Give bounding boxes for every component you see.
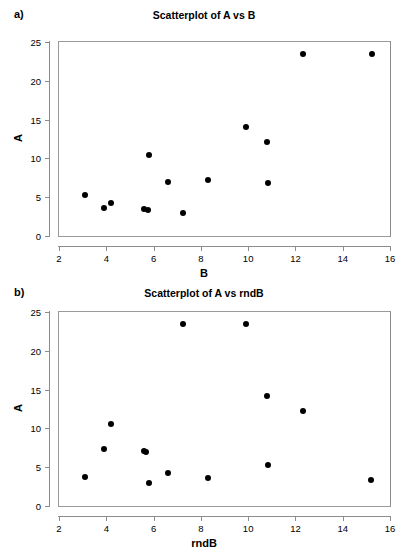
x-axis-tick-label: 8 — [189, 524, 213, 534]
data-point — [205, 177, 211, 183]
x-axis-tick-label: 16 — [378, 524, 402, 534]
x-axis-tick — [154, 247, 155, 251]
data-point — [108, 421, 114, 427]
data-point — [146, 152, 152, 158]
y-axis-tick — [45, 236, 49, 237]
y-axis-tick-label: 10 — [17, 154, 41, 164]
panel-b-plot-area — [59, 312, 390, 506]
x-axis-tick-label: 6 — [142, 254, 166, 264]
data-point — [243, 124, 249, 130]
panel-a-plot-area — [59, 42, 390, 236]
y-axis-tick-label: 20 — [17, 77, 41, 87]
panel-b: b) Scatterplot of A vs rndB 0510152025A2… — [0, 280, 408, 553]
x-axis-tick — [295, 247, 296, 251]
data-point — [101, 446, 107, 452]
data-point — [82, 192, 88, 198]
x-axis-label: B — [0, 267, 408, 279]
y-axis-tick — [45, 158, 49, 159]
y-axis-tick — [45, 197, 49, 198]
data-point — [82, 474, 88, 480]
x-axis-tick — [59, 247, 60, 251]
data-point — [143, 449, 149, 455]
y-axis-tick — [45, 42, 49, 43]
data-point — [265, 462, 271, 468]
x-axis-tick-label: 2 — [47, 254, 71, 264]
y-axis-label: A — [12, 123, 24, 153]
x-axis-tick-label: 6 — [142, 524, 166, 534]
panel-a: a) Scatterplot of A vs B 0510152025A2468… — [0, 0, 408, 280]
y-axis-tick — [45, 120, 49, 121]
x-axis-tick — [295, 517, 296, 521]
data-point — [300, 408, 306, 414]
x-axis-tick — [390, 247, 391, 251]
x-axis-tick — [201, 247, 202, 251]
y-axis-tick — [45, 467, 49, 468]
panel-b-plot-frame — [58, 311, 391, 507]
x-axis-line — [58, 516, 391, 517]
x-axis-tick-label: 10 — [236, 254, 260, 264]
panel-b-title: Scatterplot of A vs rndB — [0, 287, 408, 299]
data-point — [108, 200, 114, 206]
x-axis-tick-label: 2 — [47, 524, 71, 534]
x-axis-tick — [343, 247, 344, 251]
data-point — [146, 480, 152, 486]
y-axis-tick — [45, 428, 49, 429]
y-axis-tick-label: 25 — [17, 38, 41, 48]
x-axis-tick-label: 12 — [283, 254, 307, 264]
data-point — [101, 205, 107, 211]
x-axis-tick — [201, 517, 202, 521]
panel-a-title: Scatterplot of A vs B — [0, 9, 408, 21]
y-axis-tick-label: 0 — [17, 502, 41, 512]
y-axis-tick-label: 25 — [17, 308, 41, 318]
x-axis-tick-label: 14 — [331, 254, 355, 264]
y-axis-tick-label: 5 — [17, 193, 41, 203]
x-axis-tick-label: 4 — [94, 524, 118, 534]
x-axis-tick — [343, 517, 344, 521]
x-axis-tick — [106, 517, 107, 521]
data-point — [265, 180, 271, 186]
x-axis-tick-label: 14 — [331, 524, 355, 534]
x-axis-tick-label: 12 — [283, 524, 307, 534]
data-point — [243, 321, 249, 327]
y-axis-label: A — [12, 393, 24, 423]
y-axis-tick-label: 20 — [17, 347, 41, 357]
y-axis-tick-label: 0 — [17, 232, 41, 242]
x-axis-tick-label: 8 — [189, 254, 213, 264]
data-point — [165, 179, 171, 185]
x-axis-tick — [248, 247, 249, 251]
y-axis-line — [49, 41, 50, 237]
x-axis-tick — [106, 247, 107, 251]
x-axis-tick-label: 10 — [236, 524, 260, 534]
data-point — [180, 321, 186, 327]
x-axis-tick-label: 4 — [94, 254, 118, 264]
x-axis-tick — [390, 517, 391, 521]
data-point — [180, 210, 186, 216]
panel-a-plot-frame — [58, 41, 391, 237]
y-axis-tick-label: 5 — [17, 463, 41, 473]
y-axis-tick-label: 10 — [17, 424, 41, 434]
data-point — [300, 51, 306, 57]
data-point — [205, 475, 211, 481]
x-axis-label: rndB — [0, 537, 408, 549]
x-axis-tick-label: 16 — [378, 254, 402, 264]
y-axis-tick — [45, 351, 49, 352]
x-axis-tick — [248, 517, 249, 521]
y-axis-tick — [45, 506, 49, 507]
data-point — [369, 51, 375, 57]
data-point — [264, 139, 270, 145]
y-axis-tick — [45, 81, 49, 82]
data-point — [368, 477, 374, 483]
x-axis-tick — [59, 517, 60, 521]
y-axis-line — [49, 311, 50, 507]
data-point — [264, 393, 270, 399]
y-axis-tick — [45, 390, 49, 391]
x-axis-tick — [154, 517, 155, 521]
x-axis-line — [58, 246, 391, 247]
y-axis-tick — [45, 312, 49, 313]
data-point — [145, 207, 151, 213]
data-point — [165, 470, 171, 476]
